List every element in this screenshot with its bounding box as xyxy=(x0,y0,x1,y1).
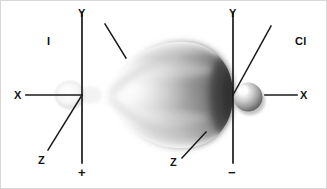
sign-label-right-minus: − xyxy=(228,166,236,179)
right-z-axis-upper xyxy=(233,26,271,95)
axis-label-right-y: Y xyxy=(229,8,237,19)
left-z-axis xyxy=(48,95,82,150)
atom-label-chlorine: Cl xyxy=(295,36,307,47)
right-z-axis-lower xyxy=(182,132,206,158)
frame-bottom xyxy=(0,188,327,189)
atom-label-iodine: I xyxy=(47,36,50,47)
axis-label-right-x: X xyxy=(300,90,308,101)
frame-left xyxy=(0,0,1,189)
axis-label-left-x: X xyxy=(14,90,22,101)
axis-label-left-z: Z xyxy=(38,155,45,166)
axis-label-right-z: Z xyxy=(170,157,177,168)
sign-label-left-plus: + xyxy=(78,166,86,179)
axes-right xyxy=(182,12,297,163)
left-z-axis-upper xyxy=(105,24,126,58)
frame-top xyxy=(0,0,327,1)
axes-left xyxy=(26,12,126,163)
orbital-overlap-figure: I Cl Y X Z + Y X Z − xyxy=(0,0,327,189)
axis-label-left-y: Y xyxy=(78,8,86,19)
axis-layer xyxy=(0,0,327,189)
